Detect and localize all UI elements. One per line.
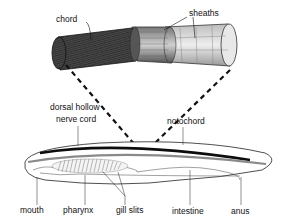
chord-body [58, 28, 138, 70]
label-mouth: mouth [20, 206, 44, 215]
label-chord: chord [56, 15, 77, 24]
amphioxus-body [25, 142, 272, 184]
label-nerve-cord: nerve cord [56, 115, 96, 124]
label-gill-slits: gill slits [116, 206, 143, 215]
label-sheaths: sheaths [189, 9, 219, 18]
label-notochord: notochord [167, 117, 205, 126]
label-dorsal-hollow: dorsal hollow [50, 103, 100, 112]
chord-end [52, 37, 66, 69]
label-anus: anus [231, 207, 249, 216]
notochord-cutaway [52, 24, 237, 70]
chordate-diagram [0, 0, 291, 222]
label-intestine: intestine [172, 207, 204, 216]
label-pharynx: pharynx [63, 206, 93, 215]
